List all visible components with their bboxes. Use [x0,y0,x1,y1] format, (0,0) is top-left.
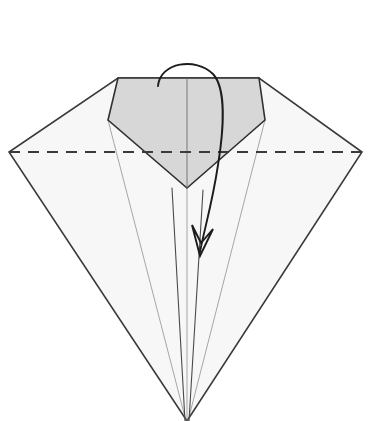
origami-diagram-svg: Origami fold step diagram Kite-shaped pa… [0,0,368,421]
origami-diagram-container: Origami fold step diagram Kite-shaped pa… [0,0,368,421]
